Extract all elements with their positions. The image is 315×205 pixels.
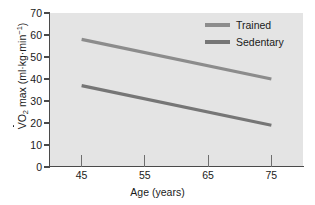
x-tick-label-45: 45 — [62, 170, 102, 181]
y-axis-title-subscript: 2 — [21, 110, 30, 114]
x-tick-75 — [271, 155, 272, 167]
x-tick-label-75: 75 — [251, 170, 291, 181]
y-axis-title-o: O — [16, 114, 28, 122]
x-tick-label-65: 65 — [188, 170, 228, 181]
y-tick-label-0: 0 — [2, 162, 42, 173]
x-axis-title: Age (years) — [0, 186, 315, 198]
legend-label-sedentary: Sedentary — [236, 37, 284, 48]
y-tick-50 — [44, 56, 50, 57]
legend-item-sedentary[interactable]: Sedentary — [205, 35, 305, 49]
x-tick-label-55: 55 — [125, 170, 165, 181]
legend-swatch-trained — [205, 23, 230, 26]
chart-figure: 010203040506070 45556575 Trained Sedenta… — [0, 0, 315, 205]
y-tick-10 — [44, 144, 50, 145]
y-tick-60 — [44, 34, 50, 35]
chart-legend: Trained Sedentary — [205, 18, 305, 52]
y-axis-title-superscript: −1 — [15, 26, 24, 35]
legend-label-trained: Trained — [236, 20, 271, 31]
y-tick-0 — [44, 166, 50, 167]
legend-swatch-sedentary — [205, 40, 230, 43]
x-tick-55 — [144, 155, 145, 167]
y-axis-title: VO2 max (ml·kg·min−1) — [16, 0, 28, 156]
y-axis-title-mid: max (ml·kg·min — [16, 35, 28, 110]
y-tick-20 — [44, 122, 50, 123]
y-tick-30 — [44, 100, 50, 101]
x-tick-45 — [81, 155, 82, 167]
y-tick-70 — [44, 12, 50, 13]
x-axis-line — [49, 166, 304, 167]
y-axis-title-v: V — [16, 122, 28, 129]
y-tick-40 — [44, 78, 50, 79]
legend-item-trained[interactable]: Trained — [205, 18, 305, 32]
x-tick-65 — [208, 155, 209, 167]
